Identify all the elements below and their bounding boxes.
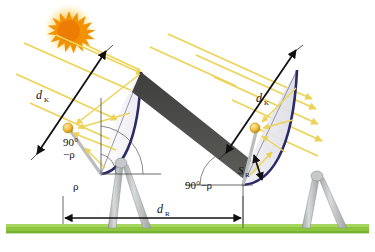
right-receiver-ball	[250, 123, 260, 133]
label-angle-left-rho: ρ	[73, 180, 79, 192]
label-angle-left-line2: −ρ	[63, 148, 75, 160]
label-dk-left-subscript: K	[44, 96, 49, 104]
label-dr: d	[157, 202, 164, 216]
label-dk-left: d	[36, 88, 43, 102]
label-dr-subscript: R	[165, 210, 170, 218]
right-pivot-joint	[311, 171, 323, 181]
left-pivot-joint	[115, 158, 127, 168]
solar-collector-diagram: d K d K S R d R 90° −ρ ρ 90°−ρ	[0, 0, 375, 252]
label-dk-right-subscript: K	[264, 99, 269, 107]
label-sr: S	[238, 164, 244, 176]
label-angle-right: 90°−ρ	[185, 179, 213, 191]
diagram-canvas: d K d K S R d R 90° −ρ ρ 90°−ρ	[0, 0, 375, 252]
left-receiver-ball	[63, 123, 73, 133]
ground-strip	[6, 224, 369, 234]
label-angle-left-line1: 90°	[63, 136, 78, 148]
label-dk-right: d	[256, 91, 263, 105]
label-sr-subscript: R	[245, 171, 250, 179]
